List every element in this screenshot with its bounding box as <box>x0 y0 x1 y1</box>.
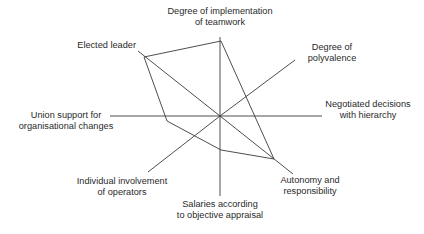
axis-label-negotiated: Negotiated decisions with hierarchy <box>316 99 420 121</box>
label-line: Degree of <box>297 42 367 53</box>
label-line: Negotiated decisions <box>316 99 420 110</box>
label-line: responsibility <box>270 186 350 197</box>
label-line: of operators <box>72 187 172 198</box>
axis-label-teamwork: Degree of implementation of teamwork <box>160 6 280 28</box>
radar-axes <box>110 37 322 196</box>
label-line: Autonomy and <box>270 175 350 186</box>
label-line: Individual involvement <box>72 176 172 187</box>
label-line: polyvalence <box>297 53 367 64</box>
axis-label-polyvalence: Degree of polyvalence <box>297 42 367 64</box>
label-line: with hierarchy <box>316 110 420 121</box>
label-line: Elected leader <box>60 40 136 51</box>
label-line: Salaries according <box>165 199 275 210</box>
label-line: Degree of implementation <box>160 6 280 17</box>
label-line: Union support for <box>16 110 116 121</box>
axis-line-leader <box>138 51 220 116</box>
axis-label-leader: Elected leader <box>60 40 136 51</box>
label-line: of teamwork <box>160 17 280 28</box>
axis-line-autonomy <box>220 116 293 174</box>
axis-label-involvement: Individual involvement of operators <box>72 176 172 198</box>
profile-polygon <box>144 41 274 159</box>
label-line: organisational changes <box>16 121 116 132</box>
axis-line-polyvalence <box>220 60 295 116</box>
axis-label-union: Union support for organisational changes <box>16 110 116 132</box>
axis-label-autonomy: Autonomy and responsibility <box>270 175 350 197</box>
axis-label-salaries: Salaries according to objective appraisa… <box>165 199 275 221</box>
label-line: to objective appraisal <box>165 210 275 221</box>
